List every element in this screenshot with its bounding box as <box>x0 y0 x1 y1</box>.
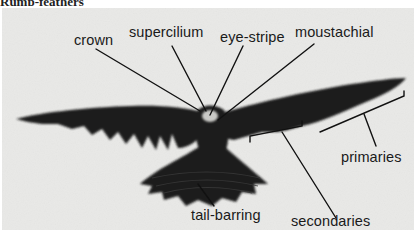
label-tail-barring: tail-barring <box>191 207 261 223</box>
bird-illustration <box>2 8 414 230</box>
label-moustachial: moustachial <box>295 24 373 40</box>
label-supercilium: supercilium <box>129 24 203 40</box>
cut-off-heading-text: Rump-feathers <box>0 0 160 6</box>
label-primaries: primaries <box>341 149 402 165</box>
bird-head-highlight <box>202 110 218 122</box>
label-eye-stripe: eye-stripe <box>220 29 285 45</box>
bird-photo-panel: crown supercilium eye-stripe moustachial… <box>2 8 414 230</box>
label-crown: crown <box>74 32 113 48</box>
label-secondaries: secondaries <box>291 213 370 229</box>
